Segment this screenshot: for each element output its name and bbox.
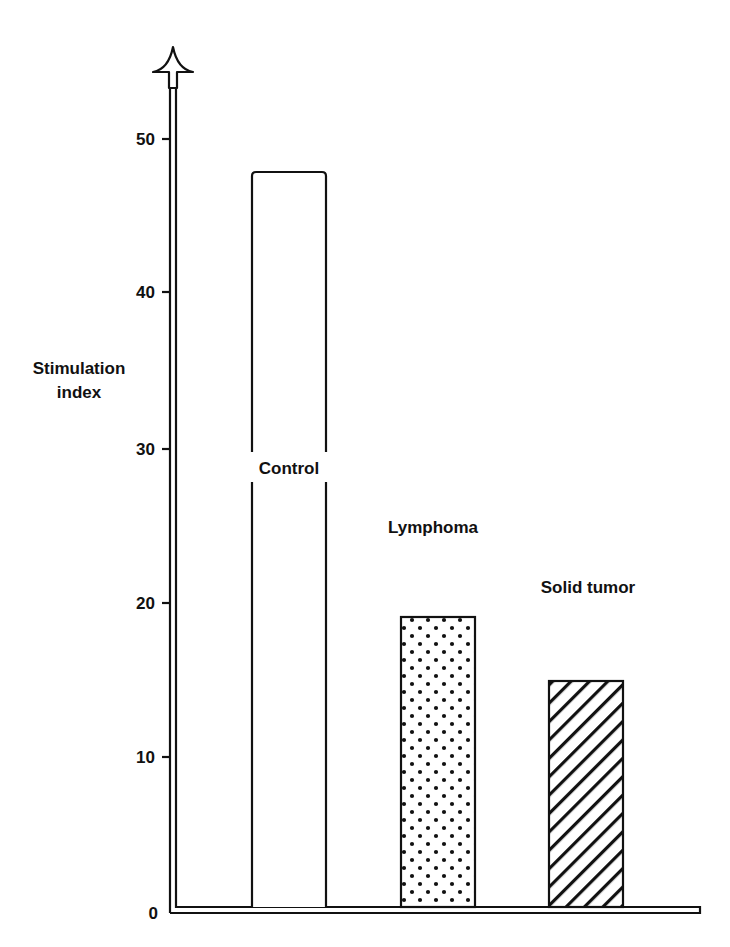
ytick-label-50: 50 bbox=[136, 130, 155, 149]
y-axis-arrow-icon bbox=[153, 47, 193, 88]
bar-solid-tumor: Solid tumor bbox=[541, 578, 636, 907]
y-axis-title: Stimulation index bbox=[33, 359, 126, 402]
bar-label-solid-tumor: Solid tumor bbox=[541, 578, 636, 597]
stimulation-index-bar-chart: 0 10 20 30 40 50 Stimulation index Contr… bbox=[0, 0, 730, 947]
bar-control: Control bbox=[244, 172, 334, 907]
y-ticks bbox=[162, 139, 170, 757]
bar-lymphoma: Lymphoma bbox=[388, 518, 479, 907]
ytick-label-40: 40 bbox=[136, 283, 155, 302]
ytick-label-10: 10 bbox=[136, 748, 155, 767]
ylabel-line-2: index bbox=[57, 383, 102, 402]
ytick-label-0: 0 bbox=[149, 904, 158, 923]
y-axis bbox=[153, 47, 193, 913]
y-tick-labels: 0 10 20 30 40 50 bbox=[136, 130, 158, 923]
bar-label-lymphoma: Lymphoma bbox=[388, 518, 479, 537]
ylabel-line-1: Stimulation bbox=[33, 359, 126, 378]
ytick-label-30: 30 bbox=[136, 440, 155, 459]
ytick-label-20: 20 bbox=[136, 594, 155, 613]
bar-label-control: Control bbox=[259, 459, 319, 478]
